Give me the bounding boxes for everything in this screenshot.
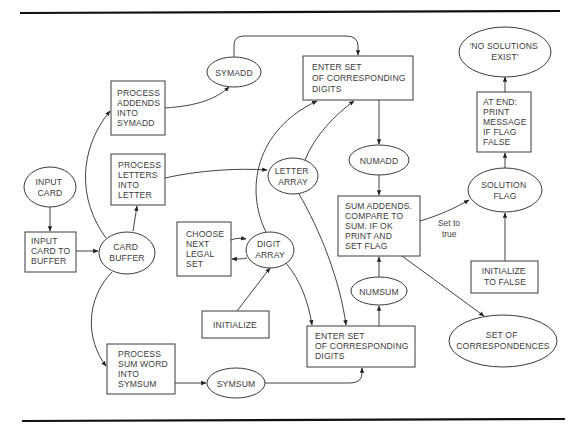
node-symadd: SYMADD <box>207 57 261 87</box>
edge-label-set-to-true: Set to true <box>438 218 462 239</box>
node-initialize: INITIALIZE <box>202 311 269 338</box>
svg-text:SYMSUM: SYMSUM <box>217 379 256 389</box>
node-set-of-correspondences: SET OF CORRESPONDENCES <box>449 315 557 367</box>
edge-symadd-to-enter-set-top <box>234 36 358 57</box>
node-input-card: INPUT CARD <box>24 167 76 207</box>
node-solution-flag: SOLUTION FLAG <box>468 168 542 212</box>
edge-choose-to-digit-array <box>231 238 246 240</box>
edge-letter-array-to-enter-set-top <box>305 101 354 160</box>
node-at-end-print: AT END: PRINT MESSAGE IF FLAG FALSE <box>477 92 531 152</box>
node-no-solutions-exist: 'NO SOLUTIONS EXIST' <box>459 27 551 77</box>
edge-initialize-to-digit-array <box>237 268 270 311</box>
svg-text:INPUT CARD: INPUT CARD <box>36 177 65 198</box>
svg-text:INITIALIZE: INITIALIZE <box>213 320 257 330</box>
node-digit-array: DIGIT ARRAY <box>246 232 294 268</box>
node-process-letters: PROCESS LETTERS INTO LETTER <box>111 154 165 205</box>
node-numsum: NUMSUM <box>351 277 407 305</box>
svg-text:NUMSUM: NUMSUM <box>359 287 399 297</box>
svg-text:NUMADD: NUMADD <box>360 156 399 166</box>
node-enter-set-bottom: ENTER SET OF CORRESPONDING DIGITS <box>307 326 415 367</box>
flow-diagram: Set to true INPUT CARD INPUT CARD TO BUF… <box>0 0 582 427</box>
edge-symsum-to-enter-set-bottom <box>265 368 362 383</box>
bottom-rule <box>22 419 565 421</box>
top-rule <box>20 11 560 13</box>
node-letter-array: LETTER ARRAY <box>268 158 318 194</box>
node-choose-next-legal-set: CHOOSE NEXT LEGAL SET <box>177 222 231 276</box>
node-input-card-to-buffer: INPUT CARD TO BUFFER <box>25 232 76 272</box>
edge-digit-array-to-enter-set-bottom <box>286 263 312 325</box>
node-process-sum-word: PROCESS SUM WORD INTO SYMSUM <box>107 344 175 394</box>
svg-text:SYMADD: SYMADD <box>215 68 253 78</box>
svg-text:INITIALIZE TO FALSE: INITIALIZE TO FALSE <box>482 266 529 287</box>
node-card-buffer: CARD BUFFER <box>99 232 155 274</box>
edge-digit-array-to-choose <box>232 258 247 259</box>
edge-process-addends-to-symadd <box>165 87 229 108</box>
node-enter-set-top: ENTER SET OF CORRESPONDING DIGITS <box>303 56 413 100</box>
node-sum-addends: SUM ADDENDS. COMPARE TO SUM. IF OK PRINT… <box>338 196 420 256</box>
svg-text:CARD BUFFER: CARD BUFFER <box>109 242 144 263</box>
nodes: INPUT CARD INPUT CARD TO BUFFER CARD BUF… <box>24 27 557 398</box>
node-initialize-to-false: INITIALIZE TO FALSE <box>471 261 538 293</box>
edge-card-buffer-to-process-addends <box>85 111 110 238</box>
edge-card-buffer-to-process-letters <box>133 206 137 231</box>
node-symsum: SYMSUM <box>207 368 265 398</box>
node-numadd: NUMADD <box>349 145 409 175</box>
node-process-addends: PROCESS ADDENDS INTO SYMADD <box>111 81 165 135</box>
svg-text:LETTER ARRAY: LETTER ARRAY <box>275 166 311 187</box>
edge-process-letters-to-letter-array <box>165 169 267 178</box>
svg-text:DIGIT ARRAY: DIGIT ARRAY <box>255 239 285 260</box>
